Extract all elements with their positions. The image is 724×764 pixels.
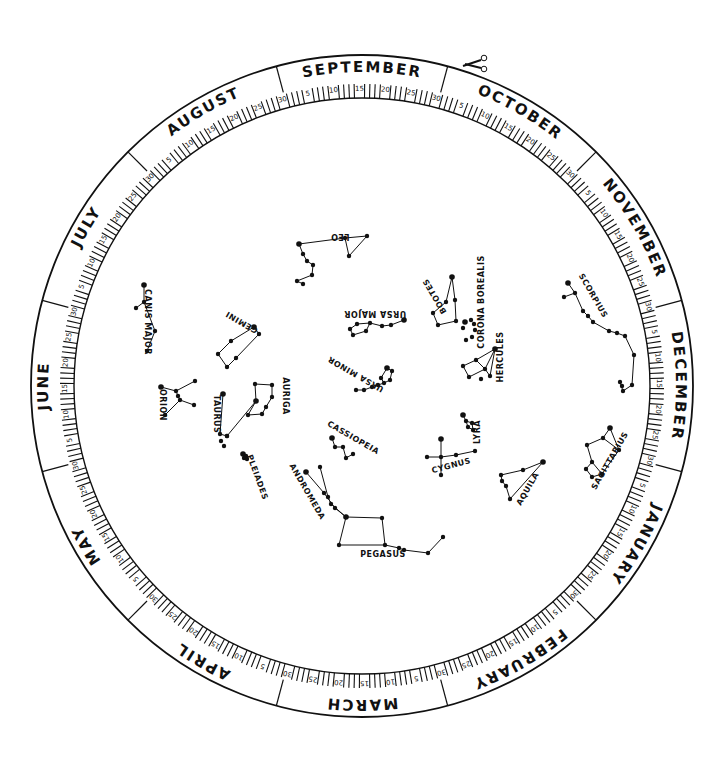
star [504,484,508,488]
star [607,329,611,333]
constellation-label: CORONA BOREALIS [477,255,486,348]
star [337,543,341,547]
star [439,455,443,459]
star [565,280,571,286]
star [354,388,358,392]
star [270,383,274,387]
day-number: 25 [406,88,416,97]
star [621,389,625,393]
star [344,456,348,460]
star [225,365,229,369]
star [438,436,444,442]
star [469,318,473,322]
star [618,380,622,384]
star [488,374,492,378]
constellation-label: AURIGA [281,377,290,415]
star [134,306,138,310]
constellation-label: LEO [331,232,350,241]
star [343,514,349,520]
star [460,412,466,418]
star [474,358,478,362]
date-ring[interactable]: 51015202530SEPTEMBER51015202530OCTOBER51… [31,55,693,717]
star [454,319,458,323]
star [615,331,619,335]
star [348,327,352,331]
month-text: MARCH [325,694,399,714]
star [439,473,443,477]
star [389,323,393,327]
star [322,491,326,495]
scissors-blade [465,64,481,68]
day-number: 15 [355,85,364,93]
star [174,389,178,393]
day-number: 15 [61,384,69,393]
day-number: 10 [653,353,662,363]
constellation-label: ORION [158,389,167,421]
star [141,282,147,288]
day-number: 15 [655,379,663,388]
star [341,445,345,449]
day-number: 20 [334,678,344,687]
star [301,252,305,256]
day-tick [349,84,350,98]
day-number: 10 [386,677,396,686]
star [462,319,468,325]
star [390,369,394,373]
star [584,467,588,471]
star [301,282,305,286]
star [444,300,448,304]
star [379,376,383,380]
star [368,321,372,325]
star [326,495,330,499]
star [260,412,264,416]
star [253,382,257,386]
star [329,435,335,441]
star [380,516,384,520]
star [632,353,636,357]
star [311,263,315,267]
day-tick [60,373,74,374]
star [347,254,351,258]
star [219,439,223,443]
scissors-handle [481,66,487,72]
star [453,298,457,302]
day-tick [375,84,376,98]
star [591,320,595,324]
star [329,502,333,506]
star [470,335,474,339]
star [467,375,471,379]
star [562,295,566,299]
day-tick [650,373,664,374]
star [364,329,368,333]
star [270,395,274,399]
star [620,384,624,388]
star [461,326,465,330]
star [425,455,429,459]
day-tick [349,674,350,688]
star [333,445,337,449]
star [521,468,525,472]
day-number: 10 [62,410,71,420]
day-number: 25 [308,674,318,683]
star [441,535,445,539]
constellation-label: PEGASUS [360,550,406,559]
day-number: 20 [654,405,663,415]
day-tick [650,399,664,400]
star [365,234,369,238]
constellation-label: HERCULES [496,331,505,382]
star [246,413,250,417]
star [473,449,477,453]
star [472,322,476,326]
star [153,329,157,333]
day-tick [375,674,376,688]
star [585,443,589,447]
star [607,425,613,431]
star [479,377,483,381]
star [351,333,355,337]
day-tick [60,399,74,400]
star [436,323,440,327]
scissors-icon [463,55,487,72]
day-number: 15 [360,679,369,687]
star [222,444,226,448]
star [499,473,503,477]
